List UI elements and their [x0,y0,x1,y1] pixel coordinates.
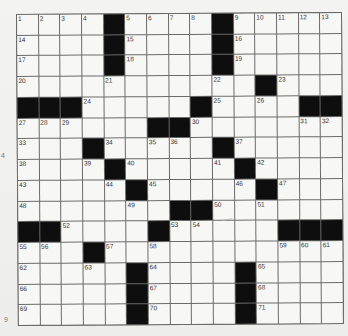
grid-cell[interactable] [127,222,148,242]
grid-cell[interactable]: 48 [18,201,39,221]
grid-cell[interactable] [214,304,235,324]
grid-cell[interactable] [84,284,105,304]
grid-cell[interactable]: 20 [17,77,38,97]
grid-cell[interactable] [300,200,321,220]
grid-cell[interactable] [278,158,299,178]
grid-cell[interactable]: 60 [300,241,321,261]
grid-cell[interactable] [278,138,299,158]
grid-cell[interactable] [40,201,61,221]
grid-cell[interactable] [278,117,299,137]
grid-cell[interactable]: 30 [191,117,212,137]
grid-cell[interactable] [299,138,320,158]
grid-cell[interactable] [105,305,126,325]
grid-cell[interactable] [148,201,169,221]
grid-cell[interactable]: 15 [125,35,146,55]
grid-cell[interactable]: 14 [17,36,38,56]
grid-cell[interactable]: 66 [19,284,40,304]
grid-cell[interactable]: 31 [299,117,320,137]
grid-cell[interactable]: 53 [170,221,191,241]
grid-cell[interactable] [213,242,234,262]
grid-cell[interactable]: 21 [104,77,125,97]
grid-cell[interactable] [322,262,343,282]
grid-cell[interactable]: 34 [104,139,125,159]
grid-cell[interactable]: 67 [149,284,170,304]
grid-cell[interactable] [83,180,104,200]
grid-cell[interactable]: 42 [256,159,277,179]
grid-cell[interactable]: 5 [125,14,146,34]
grid-cell[interactable] [61,77,82,97]
grid-cell[interactable] [61,160,82,180]
grid-cell[interactable] [192,304,213,324]
grid-cell[interactable] [62,305,83,325]
grid-cell[interactable] [82,56,103,76]
grid-cell[interactable] [321,54,342,74]
grid-cell[interactable]: 61 [322,241,343,261]
grid-cell[interactable] [40,305,61,325]
grid-cell[interactable] [62,284,83,304]
grid-cell[interactable]: 49 [126,201,147,221]
grid-cell[interactable] [257,241,278,261]
grid-cell[interactable]: 39 [83,160,104,180]
grid-cell[interactable] [61,180,82,200]
grid-cell[interactable]: 54 [192,221,213,241]
grid-cell[interactable]: 36 [169,138,190,158]
grid-cell[interactable] [190,35,211,55]
grid-cell[interactable] [278,200,299,220]
grid-cell[interactable] [61,56,82,76]
grid-cell[interactable] [40,181,61,201]
grid-cell[interactable]: 29 [61,118,82,138]
grid-cell[interactable]: 8 [190,14,211,34]
grid-cell[interactable] [126,97,147,117]
grid-cell[interactable] [82,77,103,97]
grid-cell[interactable] [105,222,126,242]
grid-cell[interactable]: 58 [148,242,169,262]
grid-cell[interactable]: 9 [234,14,255,34]
grid-cell[interactable] [234,96,255,116]
grid-cell[interactable] [147,56,168,76]
grid-cell[interactable] [234,117,255,137]
grid-cell[interactable]: 26 [256,96,277,116]
grid-cell[interactable] [279,283,300,303]
grid-cell[interactable] [213,117,234,137]
grid-cell[interactable] [105,201,126,221]
grid-cell[interactable] [321,200,342,220]
crossword-grid[interactable]: 1234567891011121314151617181920212223242… [16,12,344,326]
grid-cell[interactable]: 69 [19,305,40,325]
grid-cell[interactable]: 38 [18,160,39,180]
grid-cell[interactable] [235,242,256,262]
grid-cell[interactable] [82,35,103,55]
grid-cell[interactable] [214,283,235,303]
grid-cell[interactable] [191,55,212,75]
grid-cell[interactable] [300,158,321,178]
grid-cell[interactable]: 43 [18,181,39,201]
grid-cell[interactable] [83,201,104,221]
grid-cell[interactable] [40,264,61,284]
grid-cell[interactable] [39,77,60,97]
grid-cell[interactable] [257,221,278,241]
grid-cell[interactable]: 3 [60,15,81,35]
grid-cell[interactable]: 16 [234,34,255,54]
grid-cell[interactable] [170,180,191,200]
grid-cell[interactable] [169,97,190,117]
grid-cell[interactable] [321,179,342,199]
grid-cell[interactable] [170,159,191,179]
grid-cell[interactable] [169,76,190,96]
grid-cell[interactable] [147,97,168,117]
grid-cell[interactable]: 65 [257,262,278,282]
grid-cell[interactable] [62,243,83,263]
grid-cell[interactable]: 32 [321,117,342,137]
grid-cell[interactable] [299,75,320,95]
grid-cell[interactable] [147,35,168,55]
grid-cell[interactable] [83,118,104,138]
grid-cell[interactable]: 52 [62,222,83,242]
grid-cell[interactable] [300,262,321,282]
grid-cell[interactable] [39,35,60,55]
grid-cell[interactable]: 24 [82,97,103,117]
grid-cell[interactable] [322,303,343,323]
grid-cell[interactable] [126,118,147,138]
grid-cell[interactable] [170,263,191,283]
grid-cell[interactable] [170,283,191,303]
grid-cell[interactable] [62,263,83,283]
grid-cell[interactable] [321,75,342,95]
grid-cell[interactable] [320,34,341,54]
